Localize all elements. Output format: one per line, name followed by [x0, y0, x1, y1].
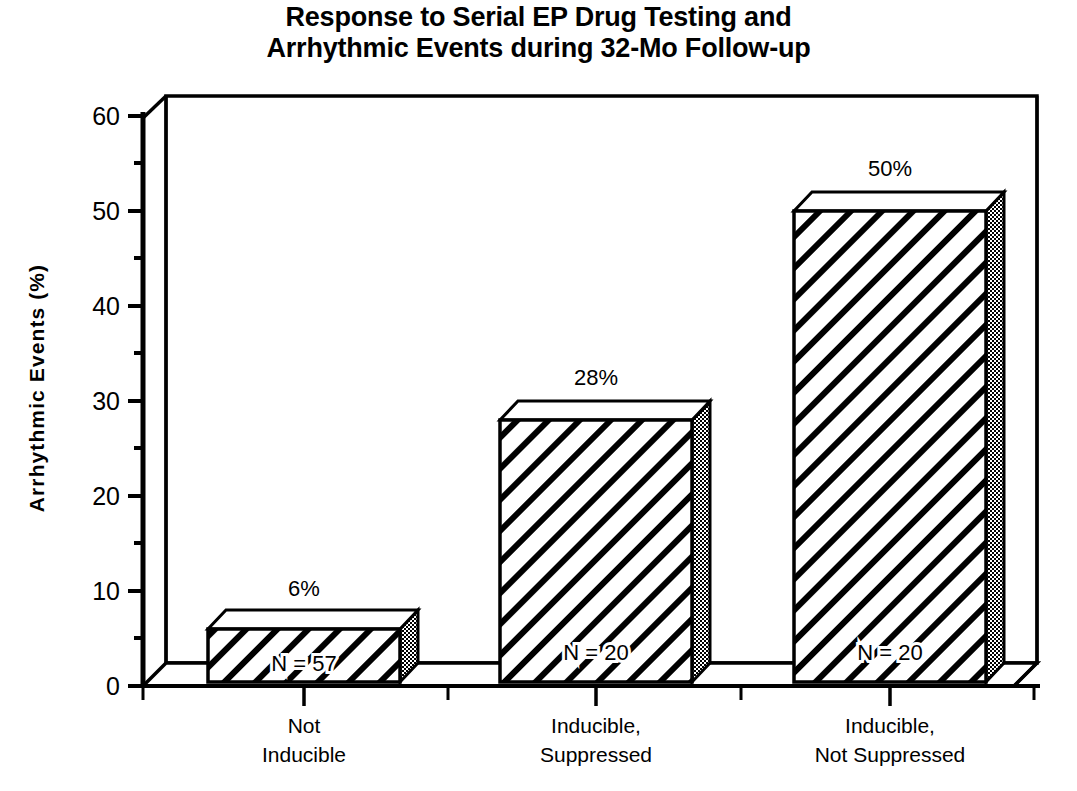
x-axis-category-labels: Not Inducible Inducible, Suppressed Indu… — [262, 714, 965, 766]
y-tick-label-60: 60 — [92, 102, 120, 130]
bar-value-label: 50% — [868, 156, 912, 181]
bar-front-face — [794, 211, 986, 682]
bar-group-inducible-suppressed[interactable]: N = 20 28% — [500, 365, 710, 682]
bar-top-face — [794, 192, 1004, 211]
bar-side-face — [986, 192, 1004, 682]
bar-side-face — [692, 401, 710, 682]
y-axis-tick-labels: 0 10 20 30 40 50 60 — [92, 102, 120, 700]
category-label-line1: Inducible, — [551, 714, 641, 737]
category-label-line2: Suppressed — [540, 743, 652, 766]
category-label-line2: Inducible — [262, 743, 346, 766]
y-tick-label-20: 20 — [92, 482, 120, 510]
category-label-line1: Not — [288, 714, 321, 737]
bar-top-face — [208, 610, 418, 629]
plot-area: 0 10 20 30 40 50 60 N = 57 6% — [0, 0, 1077, 791]
category-label-line1: Inducible, — [845, 714, 935, 737]
y-tick-label-10: 10 — [92, 577, 120, 605]
bar-value-label: 28% — [574, 365, 618, 390]
depth-edge-top-left — [143, 96, 166, 118]
chart-figure: Response to Serial EP Drug Testing and A… — [0, 0, 1077, 791]
y-tick-label-40: 40 — [92, 292, 120, 320]
bar-group-inducible-not-suppressed[interactable]: N = 20 50% — [794, 156, 1004, 682]
x-axis-ticks — [143, 686, 1034, 706]
y-tick-label-0: 0 — [106, 672, 120, 700]
category-label-line2: Not Suppressed — [815, 743, 966, 766]
y-tick-label-50: 50 — [92, 197, 120, 225]
y-tick-label-30: 30 — [92, 387, 120, 415]
bar-n-label: N = 57 — [271, 651, 336, 676]
bar-top-face — [500, 401, 710, 420]
bar-value-label: 6% — [288, 576, 320, 601]
bar-n-label: N = 20 — [563, 640, 628, 665]
bar-n-label: N = 20 — [857, 640, 922, 665]
